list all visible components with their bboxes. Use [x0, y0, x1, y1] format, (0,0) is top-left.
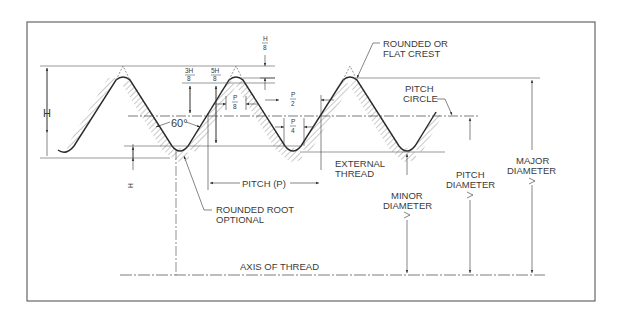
thread-diagram: H H 8 3H 8 5H 8 P 8 P 2: [0, 0, 617, 319]
dim-minor-diameter: [404, 154, 410, 273]
drawing-border: [27, 22, 595, 301]
svg-text:8: 8: [263, 44, 267, 51]
svg-text:CIRCLE: CIRCLE: [403, 93, 438, 104]
dim-H8: [260, 55, 275, 90]
svg-text:8: 8: [233, 103, 237, 110]
svg-text:FLAT CREST: FLAT CREST: [383, 48, 440, 59]
svg-text:5H: 5H: [211, 67, 220, 74]
svg-text:THREAD: THREAD: [335, 168, 374, 179]
leader-pitch-circle: [437, 99, 452, 115]
sharp-v-crests: [116, 66, 357, 80]
svg-text:DIAMETER: DIAMETER: [383, 200, 432, 211]
svg-text:OPTIONAL: OPTIONAL: [216, 214, 264, 225]
label-H: H: [43, 107, 51, 119]
hatching: [66, 78, 442, 162]
label-60: 60°: [171, 117, 188, 129]
dim-pitch-diameter: [467, 118, 473, 273]
svg-text:H: H: [263, 35, 268, 42]
reference-lines: [40, 66, 540, 158]
svg-text:P: P: [233, 94, 237, 101]
svg-text:8: 8: [187, 75, 191, 82]
svg-text:8: 8: [213, 75, 217, 82]
dim-major-diameter: [529, 80, 535, 273]
svg-text:4: 4: [291, 127, 295, 134]
svg-text:H: H: [127, 183, 134, 188]
leader-crest: [357, 43, 380, 78]
svg-text:P: P: [291, 118, 295, 125]
label-pitch: PITCH (P): [242, 178, 286, 189]
svg-text:DIAMETER: DIAMETER: [446, 179, 495, 190]
svg-text:DIAMETER: DIAMETER: [507, 165, 556, 176]
svg-text:3H: 3H: [185, 67, 194, 74]
svg-text:2: 2: [291, 100, 295, 107]
label-axis: AXIS OF THREAD: [240, 261, 319, 272]
svg-text:P: P: [291, 91, 295, 98]
